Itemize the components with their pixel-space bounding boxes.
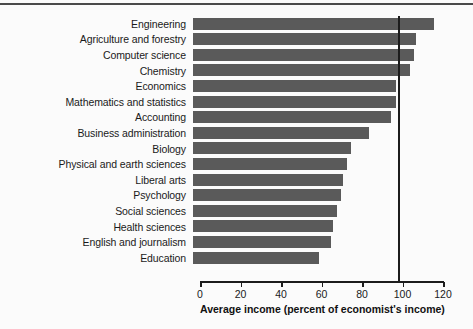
bar-row: Economics <box>0 78 473 94</box>
x-axis-tick <box>403 282 405 287</box>
bar-track <box>193 16 473 32</box>
bar <box>193 49 414 61</box>
x-axis-tick <box>362 282 364 287</box>
x-axis-title: Average income (percent of economist's i… <box>200 303 444 315</box>
x-axis-tick <box>322 282 324 287</box>
bar-track <box>193 110 473 126</box>
bar-category-label: Accounting <box>0 111 193 123</box>
bar <box>193 205 337 217</box>
x-axis-tick-label: 0 <box>180 288 220 300</box>
x-axis-tick-label: 40 <box>261 288 301 300</box>
bar-category-label: English and journalism <box>0 236 193 248</box>
bar <box>193 252 319 264</box>
bar-track <box>193 125 473 141</box>
bar-category-label: Education <box>0 252 193 264</box>
reference-line-100 <box>398 16 400 282</box>
bar <box>193 142 351 154</box>
bar <box>193 174 343 186</box>
bar-row: Physical and earth sciences <box>0 156 473 172</box>
bar <box>193 33 416 45</box>
bar-track <box>193 63 473 79</box>
x-axis-tick-label: 120 <box>423 288 463 300</box>
bar-row: Computer science <box>0 47 473 63</box>
x-axis-tick <box>281 282 283 287</box>
bar-category-label: Social sciences <box>0 205 193 217</box>
x-axis-tick-label: 20 <box>221 288 261 300</box>
bar-track <box>193 219 473 235</box>
bar-category-label: Psychology <box>0 189 193 201</box>
bar-category-label: Chemistry <box>0 65 193 77</box>
bar-track <box>193 141 473 157</box>
x-axis-tick <box>241 282 243 287</box>
x-axis-tick <box>443 282 445 287</box>
bar-category-label: Business administration <box>0 127 193 139</box>
bar-chart-plot: EngineeringAgriculture and forestryCompu… <box>0 16 473 278</box>
bar-track <box>193 78 473 94</box>
x-axis-tick <box>200 282 202 287</box>
bar-track <box>193 234 473 250</box>
bar-track <box>193 188 473 204</box>
bar-row: Education <box>0 250 473 266</box>
bar-track <box>193 32 473 48</box>
bar-track <box>193 172 473 188</box>
bar-row: Engineering <box>0 16 473 32</box>
bar-row: Mathematics and statistics <box>0 94 473 110</box>
bar-row: Accounting <box>0 110 473 126</box>
bar-track <box>193 94 473 110</box>
bar <box>193 80 396 92</box>
bar <box>193 64 410 76</box>
bar-row: Liberal arts <box>0 172 473 188</box>
bar-row: Social sciences <box>0 203 473 219</box>
bar <box>193 158 347 170</box>
bar-row: English and journalism <box>0 234 473 250</box>
bar-category-label: Economics <box>0 80 193 92</box>
bar-track <box>193 203 473 219</box>
bar-row: Health sciences <box>0 219 473 235</box>
bar-category-label: Engineering <box>0 18 193 30</box>
top-rule-divider <box>0 3 473 5</box>
bar-category-label: Liberal arts <box>0 174 193 186</box>
bar-category-label: Health sciences <box>0 221 193 233</box>
bar-track <box>193 156 473 172</box>
bar <box>193 236 331 248</box>
figure-container: EngineeringAgriculture and forestryCompu… <box>0 0 473 329</box>
bar <box>193 127 369 139</box>
x-axis-tick-label: 60 <box>302 288 342 300</box>
bar <box>193 111 391 123</box>
bar-category-label: Biology <box>0 143 193 155</box>
bar-row: Business administration <box>0 125 473 141</box>
bar-row: Biology <box>0 141 473 157</box>
x-axis-tick-label: 80 <box>342 288 382 300</box>
bar-category-label: Agriculture and forestry <box>0 33 193 45</box>
bar-category-label: Physical and earth sciences <box>0 158 193 170</box>
bar-row: Chemistry <box>0 63 473 79</box>
bar <box>193 189 341 201</box>
bar <box>193 96 396 108</box>
bar-track <box>193 47 473 63</box>
bar-row: Agriculture and forestry <box>0 32 473 48</box>
bar <box>193 220 333 232</box>
bar-track <box>193 250 473 266</box>
x-axis-tick-label: 100 <box>383 288 423 300</box>
bar-row: Psychology <box>0 188 473 204</box>
bar-category-label: Mathematics and statistics <box>0 96 193 108</box>
bar-category-label: Computer science <box>0 49 193 61</box>
